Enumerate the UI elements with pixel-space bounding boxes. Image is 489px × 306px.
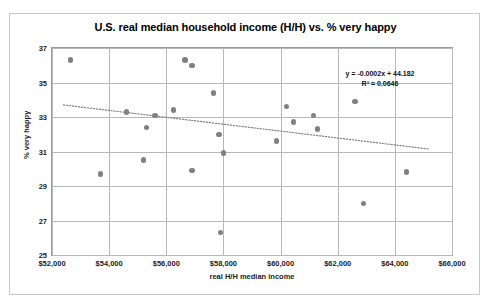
trendline-r2-text: R² = 0.0646: [300, 79, 460, 89]
data-point: [182, 57, 188, 63]
trendline-equation-annotation: y = -0.0002x + 44.182 R² = 0.0646: [300, 69, 460, 89]
x-tick-label: $62,000: [324, 259, 351, 268]
data-point: [141, 157, 147, 163]
gridline-horizontal: [52, 117, 452, 118]
gridline-horizontal: [52, 221, 452, 222]
data-point: [284, 104, 290, 110]
data-point: [221, 150, 227, 156]
x-tick-label: $58,000: [210, 259, 237, 268]
y-tick-label: 35: [39, 78, 47, 87]
data-point: [404, 169, 410, 175]
trendline-equation-text: y = -0.0002x + 44.182: [300, 69, 460, 79]
data-point: [98, 171, 104, 177]
chart-container: U.S. real median household income (H/H) …: [9, 13, 480, 295]
gridline-horizontal: [52, 48, 452, 49]
data-point: [274, 138, 280, 144]
x-axis-title: real H/H median income: [51, 272, 453, 281]
gridline-horizontal: [52, 255, 452, 256]
data-point: [291, 119, 297, 125]
data-point: [361, 201, 367, 207]
data-point: [189, 168, 195, 174]
data-point: [124, 109, 130, 115]
x-tick-label: $56,000: [153, 259, 180, 268]
data-point: [211, 90, 217, 96]
y-tick-label: 31: [39, 147, 47, 156]
data-point: [171, 107, 177, 113]
data-point: [144, 125, 150, 131]
x-tick-label: $60,000: [267, 259, 294, 268]
data-point: [311, 113, 317, 119]
data-point: [315, 126, 321, 132]
y-tick-label: 37: [39, 44, 47, 53]
x-tick-label: $52,000: [38, 259, 65, 268]
data-point: [68, 57, 74, 63]
gridline-horizontal: [52, 152, 452, 153]
data-point: [189, 63, 195, 69]
y-axis-title: % very happy: [22, 111, 31, 159]
data-point: [152, 113, 158, 119]
gridline-horizontal: [52, 186, 452, 187]
y-tick-label: 29: [39, 182, 47, 191]
y-tick-label: 27: [39, 216, 47, 225]
x-tick-label: $64,000: [381, 259, 408, 268]
chart-title: U.S. real median household income (H/H) …: [10, 21, 481, 33]
y-tick-label: 33: [39, 113, 47, 122]
data-point: [352, 99, 358, 105]
data-point: [216, 132, 222, 138]
x-tick-label: $66,000: [438, 259, 465, 268]
x-tick-label: $54,000: [96, 259, 123, 268]
